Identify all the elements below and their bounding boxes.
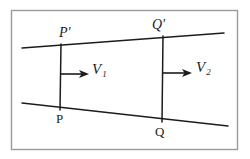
point-label-q-prime: Q' — [152, 18, 165, 32]
velocity-label-v2-subscript: 2 — [206, 67, 211, 77]
point-label-q: Q — [155, 125, 164, 138]
velocity-label-v1: V1 — [92, 62, 106, 77]
velocity-label-v1-symbol: V — [92, 61, 101, 77]
point-label-p-prime: P' — [59, 26, 71, 40]
velocity-label-v2-symbol: V — [196, 59, 205, 75]
velocity-label-v2: V2 — [196, 60, 210, 75]
cross-section-qq-prime — [162, 36, 163, 122]
flow-tube-diagram: P' Q' P Q V1 V2 — [0, 0, 250, 159]
figure-border — [12, 11, 238, 150]
diagram-canvas — [0, 0, 250, 159]
cross-section-pp-prime — [60, 44, 61, 110]
point-label-p: P — [56, 112, 63, 125]
velocity-label-v1-subscript: 1 — [102, 69, 107, 79]
